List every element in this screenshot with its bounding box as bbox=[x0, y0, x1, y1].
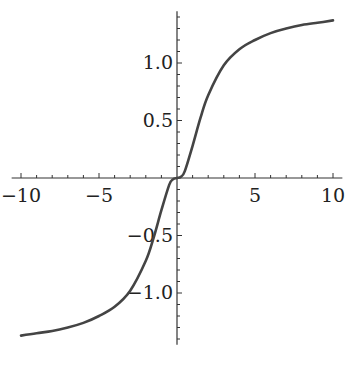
y-tick-label: 1.0 bbox=[143, 51, 173, 73]
y-tick-label: 0.5 bbox=[143, 109, 173, 131]
x-tick-label: −10 bbox=[1, 184, 41, 206]
plot-area: −10−5510−1.0−0.50.51.0 bbox=[0, 0, 360, 373]
x-tick-label: 10 bbox=[321, 184, 345, 206]
y-tick-label: −0.5 bbox=[127, 224, 173, 246]
x-tick-label: −5 bbox=[85, 184, 113, 206]
x-tick-label: 5 bbox=[249, 184, 261, 206]
